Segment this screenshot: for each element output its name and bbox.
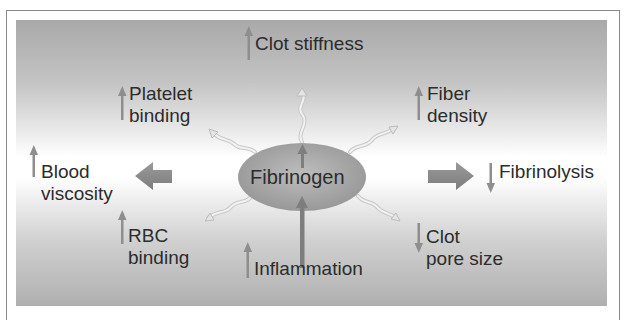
fibrinogen-label: Fibrinogen xyxy=(250,166,345,189)
label-blood-viscosity: Blood viscosity xyxy=(41,161,113,205)
label-fiber-density: Fiber density xyxy=(427,83,487,127)
label-fibrinolysis: Fibrinolysis xyxy=(499,161,594,183)
big-right-arrow-icon xyxy=(428,162,474,190)
big-left-arrow-icon xyxy=(135,162,172,190)
label-clot-stiffness: Clot stiffness xyxy=(255,33,363,55)
label-platelet-binding: Platelet binding xyxy=(129,83,192,127)
label-clot-pore-size: Clot pore size xyxy=(426,226,503,270)
label-rbc-binding: RBC binding xyxy=(128,225,189,269)
label-inflammation: Inflammation xyxy=(254,258,363,280)
